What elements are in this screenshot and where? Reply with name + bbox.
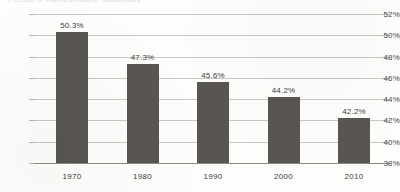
y-axis-label: 40%	[370, 137, 400, 146]
plot-area: 50.3%47.3%45.6%44.2%42.2% 19701980199020…	[34, 0, 390, 192]
y-axis-label: 50%	[370, 31, 400, 40]
y-axis-tick	[29, 120, 34, 121]
gridline	[34, 14, 390, 15]
bar	[268, 97, 300, 163]
bar-chart-figure: Percent of married-couple households 50.…	[0, 0, 400, 192]
bar	[127, 64, 159, 163]
bar	[197, 82, 229, 163]
y-axis-tick	[29, 99, 34, 100]
y-axis-tick	[29, 142, 34, 143]
bar	[338, 118, 370, 163]
y-axis-tick	[29, 163, 34, 164]
y-axis-tick	[29, 35, 34, 36]
bar-value-label: 50.3%	[49, 21, 95, 30]
y-axis-label: 52%	[370, 10, 400, 19]
x-axis-label: 2010	[331, 172, 377, 181]
bar-value-label: 45.6%	[190, 71, 236, 80]
y-axis-tick	[29, 78, 34, 79]
x-axis-label: 1970	[49, 172, 95, 181]
x-axis-line	[34, 163, 390, 164]
bar-value-label: 44.2%	[261, 86, 307, 95]
y-axis-tick	[29, 14, 34, 15]
y-axis-tick	[29, 57, 34, 58]
bar-value-label: 47.3%	[120, 53, 166, 62]
y-axis-label: 44%	[370, 95, 400, 104]
x-axis-label: 1980	[120, 172, 166, 181]
y-axis-label: 38%	[370, 159, 400, 168]
y-axis-label: 46%	[370, 73, 400, 82]
x-axis-label: 2000	[261, 172, 307, 181]
x-axis-label: 1990	[190, 172, 236, 181]
y-axis-label: 42%	[370, 116, 400, 125]
bar	[56, 32, 88, 163]
y-axis-label: 48%	[370, 52, 400, 61]
